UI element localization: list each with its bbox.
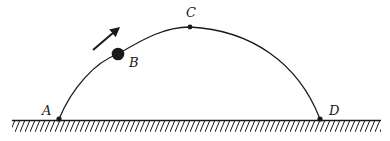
label-d: D bbox=[329, 104, 339, 117]
ground bbox=[12, 121, 381, 133]
label-c: C bbox=[186, 6, 196, 19]
ground-hatching bbox=[12, 121, 381, 132]
projectile-diagram: A B C D bbox=[0, 0, 390, 141]
label-a: A bbox=[42, 104, 51, 117]
velocity-arrow-icon bbox=[93, 30, 117, 51]
ball-b bbox=[112, 48, 125, 61]
point-a-dot bbox=[56, 116, 61, 121]
trajectory-curve bbox=[59, 27, 320, 119]
label-b: B bbox=[129, 56, 139, 69]
diagram-canvas bbox=[0, 0, 390, 141]
point-d-dot bbox=[317, 116, 322, 121]
point-c-dot bbox=[188, 25, 193, 30]
